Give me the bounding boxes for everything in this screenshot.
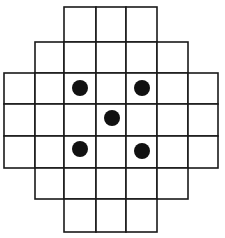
grid-cell <box>126 104 157 136</box>
grid-cell <box>35 73 64 104</box>
grid-cell <box>157 73 188 104</box>
grid-cell <box>35 104 64 136</box>
grid-cell <box>188 136 218 168</box>
grid-cell <box>96 42 126 73</box>
grid-cell <box>96 73 126 104</box>
grid-cell <box>96 199 126 232</box>
grid-cell <box>96 168 126 199</box>
dot-center-icon <box>104 110 120 126</box>
grid-cell <box>126 168 157 199</box>
grid-cell <box>126 42 157 73</box>
dot-top-left-icon <box>72 80 88 96</box>
grid-cell <box>35 168 64 199</box>
grid-cell <box>35 136 64 168</box>
grid-board <box>0 0 225 238</box>
grid-cell <box>4 73 35 104</box>
grid-cell <box>35 42 64 73</box>
grid-cell <box>126 199 157 232</box>
grid-cell <box>188 73 218 104</box>
grid-cell <box>64 104 96 136</box>
grid-cell <box>157 136 188 168</box>
grid-cell <box>4 136 35 168</box>
grid-cell <box>157 168 188 199</box>
grid-cell <box>64 42 96 73</box>
grid-cell <box>64 168 96 199</box>
grid-cell <box>157 42 188 73</box>
grid-cell <box>157 104 188 136</box>
dot-bottom-right-icon <box>134 143 150 159</box>
grid-cell <box>96 136 126 168</box>
dot-bottom-left-icon <box>72 141 88 157</box>
grid-cell <box>126 7 157 42</box>
grid-cell <box>4 104 35 136</box>
grid-cell <box>64 7 96 42</box>
dot-top-right-icon <box>134 80 150 96</box>
grid-cell <box>96 7 126 42</box>
grid-cell <box>64 199 96 232</box>
grid-cell <box>188 104 218 136</box>
